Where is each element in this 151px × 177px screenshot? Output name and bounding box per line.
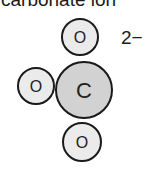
- atom-label-o-bottom: O: [76, 134, 88, 151]
- oxygen-atom-bottom: O: [63, 123, 101, 161]
- oxygen-atom-left: O: [18, 68, 54, 104]
- atom-label-c: C: [76, 78, 92, 103]
- ion-charge-label: 2−: [121, 27, 143, 49]
- carbon-atom-center: C: [56, 62, 112, 118]
- atom-label-o-left: O: [30, 78, 42, 95]
- oxygen-atom-top: O: [62, 19, 98, 55]
- atom-label-o-top: O: [74, 29, 86, 46]
